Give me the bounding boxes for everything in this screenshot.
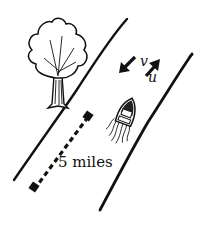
distance-label: 5 miles bbox=[58, 155, 113, 170]
current-velocity-arrow-icon bbox=[119, 57, 135, 73]
bank-tick bbox=[189, 54, 193, 57]
diagram-drawing bbox=[0, 0, 208, 226]
boat-velocity-label: u bbox=[148, 70, 157, 84]
tree-icon bbox=[29, 18, 87, 108]
river-diagram: 5 miles v u bbox=[0, 0, 208, 226]
current-velocity-label: v bbox=[140, 54, 148, 68]
right-river-bank bbox=[100, 54, 192, 210]
boat-icon bbox=[103, 93, 142, 146]
distance-marker-line bbox=[28, 110, 93, 192]
